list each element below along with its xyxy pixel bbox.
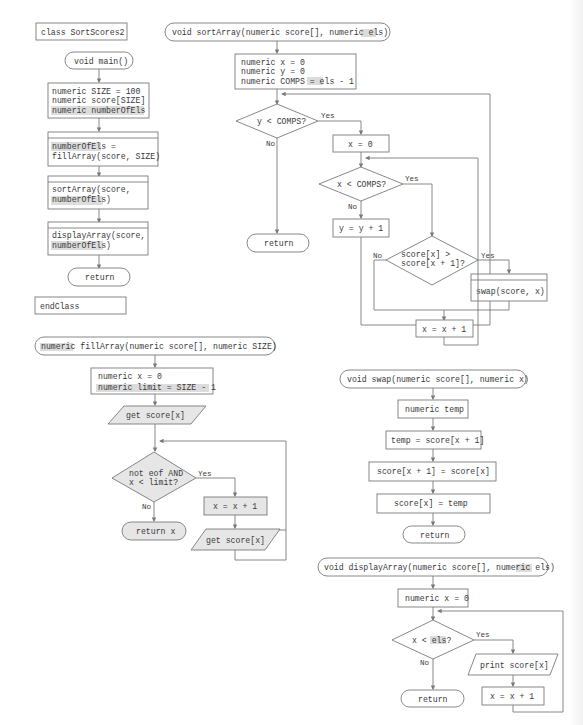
- inner-decision-diamond: x < COMPS?: [319, 167, 403, 201]
- header-text: void sortArray(numeric score[], numeric …: [172, 28, 388, 37]
- call-fillArray-box: numberOfEls = fillArray(score, SIZE): [48, 132, 160, 166]
- fillArray-return-terminal: return x: [122, 522, 186, 540]
- swap-flowchart: void swap(numeric score[], numeric x) nu…: [340, 370, 529, 543]
- call-line: sortArray(score,: [52, 185, 131, 194]
- decl-line: numeric COMPS = els - 1: [241, 77, 354, 86]
- sortArray-declarations-box: numeric x = 0 numeric y = 0 numeric COMP…: [235, 54, 356, 89]
- fillArray-decision-diamond: not eof AND x < limit?: [112, 452, 196, 502]
- call-sortArray-box: sortArray(score, numberOfEls): [48, 176, 148, 209]
- swap-decl-box: numeric temp: [398, 400, 468, 418]
- displayArray-increment-x-box: x = x + 1: [482, 687, 544, 705]
- reset-x-box: x = 0: [333, 135, 389, 152]
- print-score-parallelogram: print score[x]: [468, 654, 558, 675]
- decl-line: numeric y = 0: [241, 67, 305, 76]
- process-text: x = x + 1: [213, 502, 257, 511]
- swap-step1-box: temp = score[x + 1]: [386, 431, 484, 449]
- return-text: return: [418, 695, 448, 704]
- decision-text: not eof AND: [129, 469, 183, 478]
- io-text: print score[x]: [480, 661, 549, 670]
- swap-step3-box: score[x] = temp: [377, 494, 490, 513]
- input-get-score-parallelogram: get score[x]: [108, 406, 206, 424]
- yes-label: Yes: [405, 175, 419, 183]
- decl-text: numeric temp: [405, 405, 464, 414]
- yes-label: Yes: [321, 112, 335, 120]
- swap-return-terminal: return: [403, 526, 465, 543]
- decl-text: numeric x = 0: [405, 594, 469, 603]
- fillArray-header-terminal: numeric fillArray(numeric score[], numer…: [35, 337, 277, 355]
- class-header-text: class SortScores2: [41, 28, 125, 37]
- displayArray-flowchart: void displayArray(numeric score[], numer…: [318, 558, 563, 712]
- no-label: No: [266, 140, 276, 148]
- header-text: void displayArray(numeric score[], numer…: [324, 563, 555, 572]
- swap-header-terminal: void swap(numeric score[], numeric x): [340, 370, 529, 388]
- process-text: score[x] = temp: [394, 499, 468, 508]
- main-flowchart: class SortScores2 void main() numeric SI…: [35, 23, 160, 314]
- yes-label: Yes: [481, 252, 495, 260]
- no-label: No: [420, 659, 430, 667]
- swap-call-box: swap(score, x): [471, 274, 547, 301]
- fillArray-flowchart: numeric fillArray(numeric score[], numer…: [35, 337, 286, 560]
- decl-line: numeric x = 0: [98, 372, 162, 381]
- class-end-text: endClass: [40, 302, 79, 311]
- call-line: numberOfEls =: [52, 142, 116, 151]
- header-text: numeric fillArray(numeric score[], numer…: [41, 342, 277, 351]
- decision-text: x < COMPS?: [337, 180, 386, 189]
- decision-text: score[x + 1]?: [401, 259, 465, 268]
- process-text: temp = score[x + 1]: [391, 436, 484, 445]
- decl-line: numeric x = 0: [241, 58, 305, 67]
- swap-step2-box: score[x + 1] = score[x]: [369, 462, 496, 481]
- decl-line: numeric limit = SIZE - 1: [98, 383, 216, 392]
- yes-label: Yes: [198, 470, 212, 478]
- io-text: get score[x]: [206, 536, 265, 545]
- no-label: No: [348, 203, 358, 211]
- process-text: y = y + 1: [339, 224, 383, 233]
- displayArray-header-terminal: void displayArray(numeric score[], numer…: [318, 558, 555, 576]
- main-start-terminal: void main(): [65, 52, 133, 69]
- outer-decision-diamond: y < COMPS?: [236, 104, 318, 138]
- process-text: x = x + 1: [490, 692, 534, 701]
- decision-text: x < limit?: [129, 478, 178, 487]
- process-text: x = 0: [348, 140, 373, 149]
- return-text: return x: [136, 527, 175, 536]
- displayArray-decl-box: numeric x = 0: [398, 589, 469, 607]
- class-header-box: class SortScores2: [36, 23, 127, 40]
- no-label: No: [373, 252, 383, 260]
- call-displayArray-box: displayArray(score, numberOfEls): [48, 222, 148, 255]
- sortArray-return-terminal: return: [247, 234, 309, 252]
- fillArray-increment-x-box: x = x + 1: [204, 497, 267, 515]
- decl-line: numeric SIZE = 100: [52, 87, 141, 96]
- no-label: No: [142, 503, 152, 511]
- main-return-terminal: return: [68, 268, 130, 286]
- call-line: numberOfEls): [52, 241, 111, 250]
- call-line: numberOfEls): [52, 195, 111, 204]
- fillArray-declarations-box: numeric x = 0 numeric limit = SIZE - 1: [91, 368, 216, 394]
- header-text: void swap(numeric score[], numeric x): [347, 375, 529, 384]
- call-line: displayArray(score,: [52, 231, 145, 240]
- increment-y-box: y = y + 1: [333, 219, 389, 237]
- return-text: return: [85, 273, 115, 282]
- yes-label: Yes: [476, 631, 490, 639]
- class-end-box: endClass: [35, 297, 126, 314]
- call-line: fillArray(score, SIZE): [52, 152, 160, 161]
- decision-text: x < els?: [412, 636, 451, 645]
- page-edge-shadow: [569, 0, 583, 725]
- decision-text: score[x] >: [401, 250, 450, 259]
- return-text: return: [420, 531, 450, 540]
- increment-x-box: x = x + 1: [416, 320, 473, 337]
- displayArray-decision-diamond: x < els?: [392, 620, 474, 659]
- call-text: swap(score, x): [476, 287, 545, 296]
- return-text: return: [264, 239, 294, 248]
- decl-line: numeric score[SIZE]: [52, 96, 145, 105]
- process-text: score[x + 1] = score[x]: [377, 467, 490, 476]
- compare-decision-diamond: score[x] > score[x + 1]?: [386, 236, 478, 285]
- main-declarations-box: numeric SIZE = 100 numeric score[SIZE] n…: [48, 83, 149, 118]
- sortArray-header-terminal: void sortArray(numeric score[], numeric …: [165, 23, 390, 41]
- main-start-text: void main(): [74, 57, 128, 66]
- sortArray-flowchart: void sortArray(numeric score[], numeric …: [165, 23, 547, 345]
- input-next-score-parallelogram: get score[x]: [191, 529, 280, 550]
- decision-text: y < COMPS?: [257, 117, 306, 126]
- displayArray-return-terminal: return: [401, 690, 464, 707]
- process-text: x = x + 1: [422, 325, 466, 334]
- flowchart-canvas: class SortScores2 void main() numeric SI…: [0, 0, 583, 725]
- decl-line: numeric numberOfEls: [52, 106, 145, 115]
